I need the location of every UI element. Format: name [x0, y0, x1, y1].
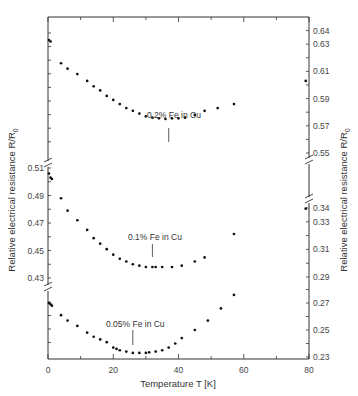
data-point — [48, 172, 51, 175]
data-point — [304, 80, 307, 83]
x-axis-title: Temperature T [K] — [140, 378, 216, 389]
data-point — [86, 229, 89, 232]
data-point — [66, 319, 69, 322]
data-point — [161, 266, 164, 269]
data-point — [180, 337, 183, 340]
x-tick-label: 20 — [109, 365, 119, 375]
data-point — [112, 346, 115, 349]
data-point — [99, 338, 102, 341]
x-tick-label: 60 — [239, 365, 249, 375]
data-point — [138, 264, 141, 267]
data-point — [86, 80, 89, 83]
data-point — [233, 294, 236, 297]
data-point — [233, 103, 236, 106]
data-point — [51, 178, 54, 181]
data-point — [92, 85, 95, 88]
data-point — [304, 207, 307, 210]
x-tick-label: 0 — [46, 365, 51, 375]
right-y-tick-label: 0.31 — [313, 244, 330, 254]
data-point — [193, 329, 196, 332]
data-point — [154, 266, 157, 269]
data-point — [180, 264, 183, 267]
data-point — [125, 350, 128, 353]
data-point — [105, 95, 108, 98]
data-point — [51, 304, 54, 307]
right-y-tick-label: 0.33 — [313, 217, 330, 227]
right-y-tick-label: 0.61 — [313, 66, 330, 76]
right-y-tick-label: 0.57 — [313, 121, 330, 131]
x-tick-label: 40 — [174, 365, 184, 375]
data-point — [216, 107, 219, 110]
data-point — [112, 99, 115, 102]
right-y-tick-label: 0.55 — [313, 148, 330, 158]
data-point — [66, 209, 69, 212]
data-point — [60, 314, 63, 317]
data-point — [220, 307, 223, 310]
right-y-tick-label: 0.34 — [313, 203, 330, 213]
series-label-0-2pct: 0.2% Fe in Cu — [147, 110, 201, 120]
data-point — [167, 346, 170, 349]
data-point — [125, 260, 128, 263]
data-point — [145, 266, 148, 269]
data-point — [105, 248, 108, 251]
data-point — [145, 352, 148, 355]
resistance-vs-temperature-chart: 0204060800.510.490.470.450.430.640.630.6… — [0, 0, 358, 396]
data-point — [60, 197, 63, 200]
data-point — [154, 350, 157, 353]
data-point — [203, 109, 206, 112]
right-y-tick-label: 0.64 — [313, 26, 330, 36]
data-point — [76, 219, 79, 222]
data-point — [115, 348, 118, 351]
data-point — [99, 89, 102, 92]
data-point — [118, 349, 121, 352]
data-point — [233, 233, 236, 236]
series-label-0-1pct: 0.1% Fe in Cu — [128, 232, 182, 242]
data-point — [92, 237, 95, 240]
right-y-tick-label: 0.59 — [313, 94, 330, 104]
data-point — [49, 40, 52, 43]
data-point — [138, 352, 141, 355]
data-point — [105, 341, 108, 344]
right-y-axis-title: Relative electrical resistance R/R0 — [338, 128, 351, 271]
data-point — [60, 62, 63, 65]
data-point — [138, 112, 141, 115]
right-y-tick-label: 0.63 — [313, 39, 330, 49]
data-point — [131, 109, 134, 112]
data-point — [161, 349, 164, 352]
data-point — [148, 351, 151, 354]
right-y-tick-label: 0.23 — [313, 352, 330, 362]
data-point — [66, 67, 69, 70]
plot-frame — [48, 17, 309, 359]
data-point — [76, 325, 79, 328]
left-y-axis-title: Relative electrical resistance R/R0 — [6, 128, 19, 271]
left-y-tick-label: 0.43 — [27, 273, 44, 283]
data-point — [131, 263, 134, 266]
data-point — [174, 342, 177, 345]
data-point — [112, 253, 115, 256]
data-point — [151, 266, 154, 269]
right-y-tick-label: 0.25 — [313, 325, 330, 335]
data-point — [86, 331, 89, 334]
series-label-0-05pct: 0.05% Fe in Cu — [106, 319, 165, 329]
data-point — [118, 103, 121, 106]
left-y-tick-label: 0.45 — [27, 246, 44, 256]
data-point — [99, 242, 102, 245]
data-point — [193, 260, 196, 263]
data-points — [48, 39, 307, 355]
axis-ticks — [48, 17, 309, 359]
axis-break-marks — [44, 155, 313, 291]
data-point — [76, 73, 79, 76]
left-y-tick-label: 0.51 — [27, 163, 44, 173]
left-y-tick-label: 0.47 — [27, 218, 44, 228]
data-point — [125, 107, 128, 110]
data-point — [131, 352, 134, 355]
data-point — [203, 256, 206, 259]
right-y-tick-label: 0.27 — [313, 298, 330, 308]
data-point — [171, 266, 174, 269]
left-y-tick-label: 0.49 — [27, 191, 44, 201]
data-point — [118, 257, 121, 260]
data-point — [92, 335, 95, 338]
axis-tick-labels: 0204060800.510.490.470.450.430.640.630.6… — [27, 26, 329, 375]
x-tick-label: 80 — [304, 365, 314, 375]
right-y-tick-label: 0.29 — [313, 272, 330, 282]
